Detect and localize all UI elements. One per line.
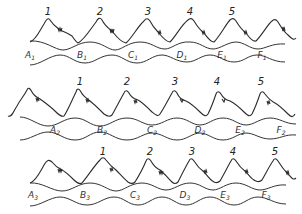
row-2-cell-label-b: B2 xyxy=(97,125,107,136)
row-2-cell-label-e: E2 xyxy=(235,125,245,136)
row-3-peak-label-4: 4 xyxy=(230,146,236,157)
row-1-cell-label-a: A1 xyxy=(24,50,35,61)
row-1-cell-label-c: C1 xyxy=(128,50,138,61)
row-3 xyxy=(30,158,296,206)
row-2-peak-label-1: 1 xyxy=(77,76,83,87)
row-1-cell-label-b: B1 xyxy=(77,50,87,61)
row-3-lower-sine xyxy=(30,197,286,206)
row-1-peak-label-4: 4 xyxy=(187,6,193,17)
row-2-peak-label-2: 2 xyxy=(124,76,130,87)
row-3-peak-label-2: 2 xyxy=(147,146,153,157)
row-3-upper-sine xyxy=(30,183,286,191)
row-3-cell-label-c: C3 xyxy=(130,190,140,201)
row-2-peak-label-4: 4 xyxy=(214,76,220,87)
row-3-cell-label-f: F3 xyxy=(261,190,270,201)
row-3-cell-label-b: B3 xyxy=(80,190,90,201)
row-2-cell-label-f: F2 xyxy=(276,125,285,136)
row-3-peak-wave xyxy=(30,158,296,184)
row-1-cell-label-f: F1 xyxy=(257,50,266,61)
row-3-cell-label-a: A3 xyxy=(27,190,38,201)
row-2-cell-label-c: C2 xyxy=(147,125,157,136)
row-2-cell-label-a: A2 xyxy=(49,125,60,136)
sequential-wave-diagram: 12345A1B1C1D1E1F112345A2B2C2D2E2F212345A… xyxy=(0,0,302,214)
row-1-cell-label-e: E1 xyxy=(217,50,227,61)
row-3-cell-label-d: D3 xyxy=(180,190,191,201)
row-1-lower-sine xyxy=(30,55,285,65)
row-2-lower-sine xyxy=(20,132,296,140)
row-1 xyxy=(30,18,296,65)
row-3-cell-label-e: E3 xyxy=(220,190,230,201)
row-1-peak-wave xyxy=(30,18,296,43)
row-2-peak-label-3: 3 xyxy=(172,76,178,87)
row-1-upper-sine xyxy=(30,41,285,50)
row-2-peak-label-5: 5 xyxy=(258,76,264,87)
row-3-peak-label-5: 5 xyxy=(272,146,278,157)
row-1-peak-label-3: 3 xyxy=(145,6,151,17)
row-1-peak-label-5: 5 xyxy=(229,6,235,17)
row-2-peak-wave xyxy=(8,88,295,116)
row-3-peak-label-1: 1 xyxy=(100,146,106,157)
row-2-upper-sine xyxy=(20,117,296,126)
row-1-cell-label-d: D1 xyxy=(177,50,188,61)
row-1-peak-label-1: 1 xyxy=(45,6,51,17)
row-1-peak-label-2: 2 xyxy=(97,6,103,17)
row-3-peak-label-3: 3 xyxy=(189,146,195,157)
row-2-cell-label-d: D2 xyxy=(195,125,206,136)
